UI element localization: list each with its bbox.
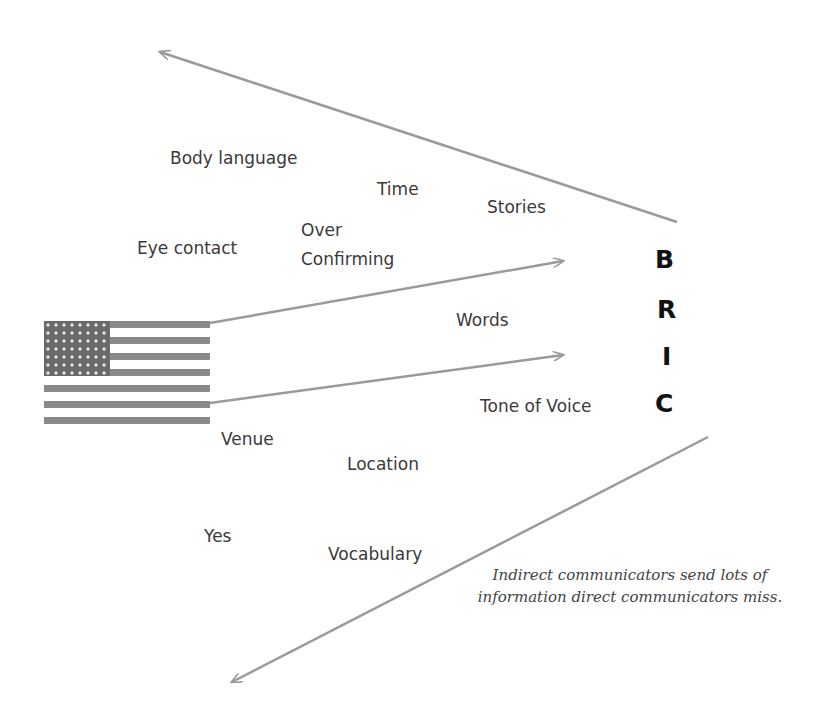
label-yes: Yes xyxy=(204,525,231,547)
arrow-flag-to-bric-top xyxy=(210,261,563,323)
us-flag-icon xyxy=(44,321,210,425)
label-words: Words xyxy=(456,309,509,331)
bric-letter-i: I xyxy=(662,342,671,371)
label-vocabulary: Vocabulary xyxy=(328,543,422,565)
label-over: Over xyxy=(301,219,342,241)
label-tone-of-voice: Tone of Voice xyxy=(480,395,592,417)
bric-letter-r: R xyxy=(657,295,676,324)
bric-letter-b: B xyxy=(655,245,674,274)
label-location: Location xyxy=(347,453,419,475)
flag-canton xyxy=(44,321,110,376)
label-confirming: Confirming xyxy=(301,248,394,270)
label-stories: Stories xyxy=(487,196,546,218)
label-eye-contact: Eye contact xyxy=(137,237,237,259)
label-body-language: Body language xyxy=(170,147,297,169)
label-venue: Venue xyxy=(221,428,274,450)
arrow-lower-left xyxy=(232,437,708,682)
bric-letter-c: C xyxy=(655,389,673,418)
caption: Indirect communicators send lots of info… xyxy=(470,565,790,609)
label-time: Time xyxy=(377,178,419,200)
